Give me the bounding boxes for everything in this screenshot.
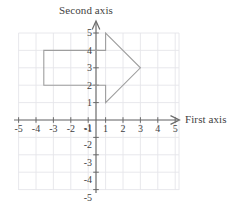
x-tick-label-3: 3 [134, 124, 146, 134]
y-tick-label-neg-3: -3 [78, 158, 92, 168]
x-tick-label-2: 2 [117, 124, 129, 134]
coordinate-plane-figure: Second axis First axis -5 -4 -3 -2 -1 1 … [0, 0, 241, 203]
grid-lines [19, 33, 179, 190]
coordinate-plane-svg [0, 0, 241, 203]
x-tick-label-1: 1 [100, 124, 112, 134]
first-axis-title: First axis [185, 113, 227, 125]
x-tick-label-neg-4: -4 [29, 124, 43, 134]
x-tick-label-4: 4 [152, 124, 164, 134]
x-tick-label-neg-2: -2 [64, 124, 78, 134]
y-tick-label-neg-2: -2 [78, 140, 92, 150]
y-tick-label-neg-4: -4 [78, 175, 92, 185]
x-tick-label-5: 5 [169, 124, 181, 134]
y-tick-label-neg-1: -1 [78, 123, 92, 133]
y-tick-label-1: 1 [80, 98, 92, 108]
y-tick-label-5: 5 [80, 28, 92, 38]
y-tick-label-2: 2 [80, 81, 92, 91]
y-tick-label-3: 3 [80, 63, 92, 73]
y-tick-label-neg-5: -5 [78, 193, 92, 203]
x-tick-label-neg-5: -5 [12, 124, 26, 134]
y-axis [92, 21, 100, 193]
y-tick-label-4: 4 [80, 46, 92, 56]
second-axis-title: Second axis [59, 4, 113, 16]
x-tick-label-neg-3: -3 [46, 124, 60, 134]
axis-tick-marks [19, 33, 176, 190]
